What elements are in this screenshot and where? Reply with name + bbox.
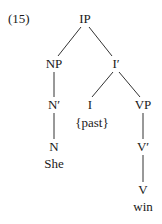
node-np: NP <box>46 57 63 71</box>
word-win: win <box>133 200 153 214</box>
example-number: (15) <box>8 12 30 26</box>
node-i: I <box>88 98 92 112</box>
node-v: V <box>138 183 147 197</box>
word-she: She <box>44 157 64 171</box>
node-ip: IP <box>79 12 91 26</box>
edge-ibar-vp <box>119 72 140 97</box>
node-ibar: I′ <box>112 57 119 71</box>
edge-ip-np <box>58 27 81 56</box>
node-nbar: N′ <box>48 98 60 112</box>
node-vbar: V′ <box>137 140 149 154</box>
edge-ibar-i <box>92 72 113 97</box>
edge-ip-ibar <box>89 27 112 56</box>
node-n: N <box>49 140 58 154</box>
feature-past: {past} <box>75 116 108 130</box>
node-vp: VP <box>135 98 152 112</box>
